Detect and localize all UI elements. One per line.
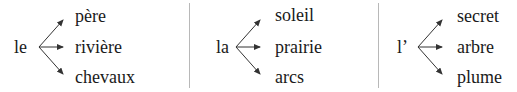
word-item: prairie	[275, 38, 322, 56]
article-label: le	[14, 38, 27, 56]
word-item: rivière	[75, 38, 122, 56]
article-label: la	[216, 38, 229, 56]
group-l-apostrophe: l’ secret arbre plume	[379, 0, 517, 92]
group-le: le père rivière chevaux	[0, 0, 189, 92]
word-item: plume	[457, 68, 502, 86]
branch-arrows-icon	[235, 14, 265, 78]
word-item: arbre	[457, 38, 494, 56]
branch-arrows-icon	[417, 14, 447, 78]
group-la: la soleil prairie arcs	[190, 0, 378, 92]
word-item: arcs	[275, 68, 304, 86]
article-label: l’	[397, 38, 408, 56]
word-item: chevaux	[75, 68, 135, 86]
branch-arrows-icon	[38, 14, 68, 78]
word-item: soleil	[275, 6, 314, 24]
word-item: père	[75, 7, 106, 25]
word-item: secret	[457, 7, 499, 25]
